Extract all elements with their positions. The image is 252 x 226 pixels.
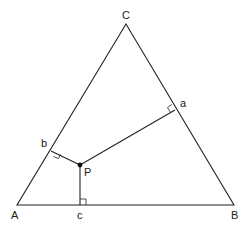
perpendicular-p-b bbox=[51, 151, 80, 165]
triangle-diagram: A B C P a b c bbox=[0, 0, 252, 226]
right-angle-marker-c bbox=[80, 199, 86, 205]
label-a-vertex: A bbox=[11, 209, 19, 221]
label-foot-c: c bbox=[77, 209, 83, 221]
triangle-abc bbox=[17, 24, 234, 205]
point-p-dot bbox=[78, 163, 83, 168]
label-foot-a: a bbox=[180, 97, 187, 109]
right-angle-marker-a bbox=[168, 105, 173, 113]
label-p: P bbox=[84, 166, 91, 178]
label-b-vertex: B bbox=[231, 209, 238, 221]
label-foot-b: b bbox=[41, 137, 47, 149]
perpendicular-p-a bbox=[80, 110, 175, 165]
label-c-vertex: C bbox=[122, 9, 130, 21]
